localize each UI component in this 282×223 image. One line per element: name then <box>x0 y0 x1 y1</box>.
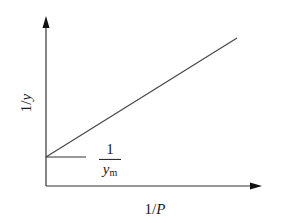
y-axis-label: 1/y <box>19 94 34 112</box>
x-axis-label-var: P <box>156 201 165 217</box>
x-axis-label-prefix: 1/ <box>145 201 157 217</box>
data-line <box>46 38 237 157</box>
x-axis-label: 1/P <box>145 202 166 217</box>
y-axis-arrow-icon <box>43 16 50 28</box>
intercept-annotation: 1 ym <box>99 142 121 178</box>
intercept-denominator-subscript: m <box>109 167 117 178</box>
intercept-numerator: 1 <box>106 142 114 159</box>
y-axis-label-var: y <box>18 94 34 101</box>
chart-plot-area <box>0 0 282 223</box>
x-axis-arrow-icon <box>250 183 262 190</box>
intercept-denominator: ym <box>103 160 117 178</box>
y-axis-label-prefix: 1/ <box>18 101 34 113</box>
